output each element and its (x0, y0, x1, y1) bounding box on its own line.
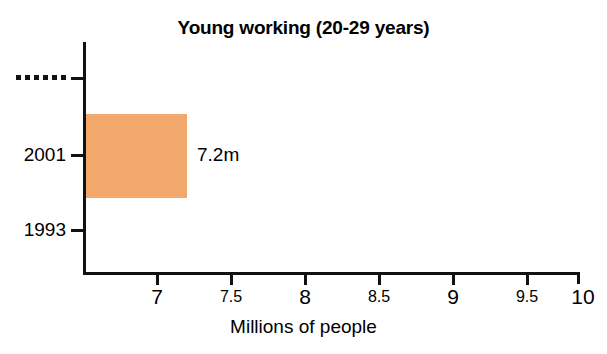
x-axis-label-8: 8 (299, 286, 311, 308)
dot-icon (43, 75, 48, 80)
x-axis-tick-9-5 (526, 275, 529, 285)
dot-icon (25, 75, 30, 80)
dot-icon (16, 75, 21, 80)
chart-title: Young working (20-29 years) (0, 17, 607, 39)
x-axis-title: Millions of people (0, 316, 607, 338)
x-axis-tick-9 (452, 275, 455, 285)
y-axis-label-2001: 2001 (24, 145, 66, 164)
y-axis-label-2001-wrap: 2001 (0, 145, 66, 164)
x-axis-label-9: 9 (447, 286, 459, 308)
x-axis-label-10: 10 (571, 286, 594, 308)
dot-icon (61, 75, 66, 80)
y-axis-tick-1993 (71, 229, 84, 232)
y-axis-tick-top (71, 77, 84, 80)
x-axis-label-9-5: 9.5 (516, 286, 538, 308)
bar-chart: Young working (20-29 years) 2001 1993 7.… (0, 0, 607, 354)
redacted-dots-icon (0, 68, 66, 87)
y-axis-label-1993: 1993 (24, 220, 66, 239)
dot-icon (34, 75, 39, 80)
x-axis-tick-8 (304, 275, 307, 285)
x-axis-label-7: 7 (151, 286, 163, 308)
x-axis-tick-7 (156, 275, 159, 285)
bar-2001 (86, 114, 187, 198)
x-axis-tick-7-5 (230, 275, 233, 285)
y-axis-tick-2001 (71, 154, 84, 157)
x-axis-endcap (577, 272, 580, 284)
y-axis-label-1993-wrap: 1993 (0, 220, 66, 239)
dot-icon (52, 75, 57, 80)
x-axis-label-7-5: 7.5 (220, 286, 242, 308)
x-axis-label-8-5: 8.5 (368, 286, 390, 308)
bar-value-label: 7.2m (197, 145, 239, 164)
y-axis-label-redacted (0, 68, 66, 87)
x-axis-tick-8-5 (378, 275, 381, 285)
